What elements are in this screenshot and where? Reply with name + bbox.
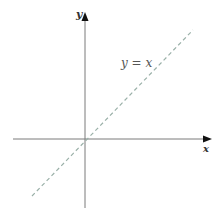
x-axis-arrow-icon: [203, 136, 212, 143]
identity-line: [32, 30, 193, 196]
coordinate-plane: [0, 0, 221, 208]
y-axis-arrow-icon: [82, 12, 89, 21]
line-equation-label: y = x: [121, 56, 152, 70]
y-axis-label: y: [76, 8, 82, 21]
x-axis-label: x: [203, 143, 209, 154]
